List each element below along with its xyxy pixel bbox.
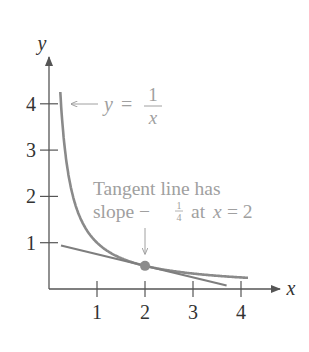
x-tick-label: 3 (188, 301, 198, 323)
x-tick-label: 4 (236, 301, 246, 323)
tangent-point (140, 261, 150, 271)
x-axis-label: x (286, 277, 296, 299)
tangent-label-eq2: = 2 (227, 201, 253, 222)
tangent-label-line1: Tangent line has (93, 178, 221, 199)
slope-denominator: 4 (177, 212, 182, 223)
y-tick-label: 4 (26, 93, 36, 115)
y-tick-label: 1 (26, 232, 36, 254)
chart: yx12341234y=1xTangent line hasslope −14a… (0, 0, 309, 352)
curve-label-y: y (102, 93, 113, 116)
slope-numerator: 1 (177, 200, 182, 211)
y-tick-label: 3 (26, 139, 36, 161)
y-axis-label: y (36, 32, 47, 55)
y-tick-label: 2 (26, 185, 36, 207)
curve-label-denominator: x (148, 107, 158, 128)
tangent-label-at: at (191, 201, 206, 222)
x-tick-label: 1 (92, 301, 102, 323)
x-tick-label: 2 (140, 301, 150, 323)
tangent-label-slope: slope − (93, 201, 150, 222)
curve-label-numerator: 1 (148, 84, 158, 105)
curve-label-equals: = (121, 93, 132, 115)
tangent-label-x: x (212, 201, 222, 222)
